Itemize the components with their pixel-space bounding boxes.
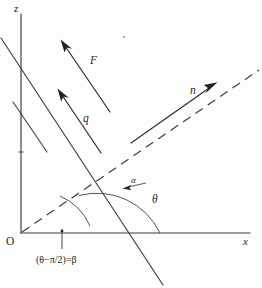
beta-angle-arc <box>60 196 90 226</box>
ink-speck <box>123 36 125 38</box>
normal-vector-label: n <box>190 84 196 96</box>
flow-vector-label: q <box>83 112 89 125</box>
normal-vector-arrow <box>131 82 218 143</box>
alpha-angle-label: α <box>131 175 136 185</box>
z-axis-label: z <box>13 2 19 14</box>
theta-angle-arc <box>79 193 160 233</box>
figure-container: z x O F q n θ α (θ−π/2)=β <box>0 0 262 288</box>
field-line-strokes <box>13 102 60 178</box>
beta-caption-label: (θ−π/2)=β <box>36 254 77 266</box>
plane-trace-line <box>1 38 163 285</box>
vector-diagram-svg: z x O F q n θ α (θ−π/2)=β <box>0 0 262 288</box>
flow-vector-arrow <box>58 89 102 154</box>
z-axis <box>19 14 24 233</box>
normal-dashed-line <box>22 70 259 232</box>
theta-angle-label: θ <box>152 193 158 205</box>
force-vector-arrow <box>61 40 111 113</box>
x-axis-label: x <box>242 235 248 247</box>
origin-label: O <box>6 235 14 247</box>
force-vector-label: F <box>89 54 98 66</box>
